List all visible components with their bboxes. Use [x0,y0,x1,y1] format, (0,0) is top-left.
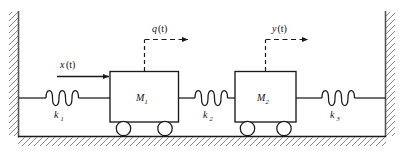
spring-k2-coils [195,91,228,106]
spring-k3-subscript: 3 [336,115,341,122]
arrow-x-argument: (t) [66,59,75,71]
mass-m2-wheel-right [277,121,291,135]
mass-m1-wheel-right [158,121,172,135]
spring-k2-label: k [203,109,208,120]
left-wall-hatching [9,12,18,136]
mass-m2-label: M [256,92,266,103]
spring-k2: k 2 [179,91,236,122]
mass-m1-subscript: 1 [145,98,148,105]
mass-m2: M 2 [235,72,296,136]
ground [18,137,386,147]
arrow-y-argument: (t) [278,23,287,35]
spring-k3-coils [322,91,355,106]
mass-m1: M 1 [110,72,179,136]
right-wall-hatching [386,12,395,136]
diagram-canvas: k 1 x (t) M 1 q (t) [0,0,404,159]
spring-k3: k 3 [296,91,386,122]
arrow-y-label: y [271,23,277,34]
arrow-q: q (t) [145,23,189,71]
spring-k1-coils [46,91,79,106]
spring-k1: k 1 [19,91,110,122]
spring-k1-label: k [54,109,59,120]
left-wall [9,11,19,137]
arrow-x-label: x [59,59,65,70]
right-wall [386,11,396,137]
arrow-q-argument: (t) [158,23,167,35]
spring-k2-subscript: 2 [210,115,214,122]
mass-m2-wheel-left [240,121,254,135]
arrow-q-label: q [152,23,157,34]
mass-m1-label: M [135,92,145,103]
mass-m1-wheel-left [116,121,130,135]
mechanical-system-diagram: k 1 x (t) M 1 q (t) [0,0,404,159]
spring-k3-label: k [330,109,335,120]
ground-hatching [18,137,386,146]
arrow-y: y (t) [266,23,309,71]
arrow-x: x (t) [57,59,109,77]
spring-k1-subscript: 1 [61,115,64,122]
